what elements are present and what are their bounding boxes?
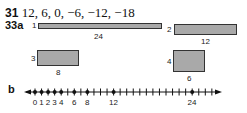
number-line xyxy=(0,0,247,113)
tick-label: 12 xyxy=(109,98,118,107)
left-arrow-icon xyxy=(24,90,31,95)
tick-label: 24 xyxy=(188,98,197,107)
point-4 xyxy=(59,90,63,94)
tick-label: 0 xyxy=(33,98,37,107)
tick-label: 6 xyxy=(72,98,76,107)
point-2 xyxy=(46,90,50,94)
tick-label: 2 xyxy=(46,98,50,107)
tick-label: 1 xyxy=(39,98,43,107)
right-arrow-icon xyxy=(215,90,222,95)
point-1 xyxy=(40,90,44,94)
tick-label: 3 xyxy=(52,98,56,107)
point-8 xyxy=(85,90,89,94)
point-6 xyxy=(72,90,76,94)
tick-label: 8 xyxy=(85,98,89,107)
tick-label: 4 xyxy=(59,98,63,107)
point-24 xyxy=(190,90,194,94)
point-3 xyxy=(53,90,57,94)
point-12 xyxy=(112,90,116,94)
point-0 xyxy=(33,90,37,94)
